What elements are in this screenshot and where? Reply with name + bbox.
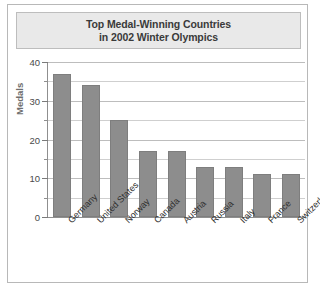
y-tick-label-10: 10 <box>29 173 40 184</box>
bar-series <box>48 62 305 217</box>
bar-slot <box>191 62 220 217</box>
y-tick-label-0: 0 <box>35 212 40 223</box>
plot-wrapper: Medals 010203040 GermanyUnited StatesNor… <box>8 5 309 284</box>
y-tick-label-30: 30 <box>29 95 40 106</box>
y-tick-label-20: 20 <box>29 134 40 145</box>
bar-slot <box>134 62 163 217</box>
bar-slot <box>48 62 77 217</box>
bar-slot <box>277 62 306 217</box>
plot-area: 010203040 <box>47 62 305 218</box>
bar-slot <box>219 62 248 217</box>
bar-france[interactable] <box>253 174 271 217</box>
x-axis-labels: GermanyUnited StatesNorwayCanadaAustriaR… <box>47 218 304 284</box>
bar-slot <box>162 62 191 217</box>
y-tick-label-40: 40 <box>29 57 40 68</box>
chart-figure: Top Medal-Winning Countries in 2002 Wint… <box>7 4 308 283</box>
y-axis-title: Medals <box>14 83 25 115</box>
bar-slot <box>248 62 277 217</box>
bar-germany[interactable] <box>53 74 71 217</box>
